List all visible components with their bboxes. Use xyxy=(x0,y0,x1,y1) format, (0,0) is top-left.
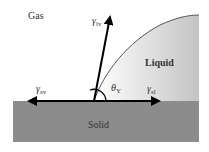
gas-label: Gas xyxy=(28,10,44,21)
gamma-sv-label: γsv xyxy=(36,83,47,96)
gamma-lv-label: γlv xyxy=(92,15,102,28)
liquid-label: Liquid xyxy=(145,57,174,68)
contact-angle-diagram: Gas Liquid Solid γlv γsv γsl θY xyxy=(0,0,209,152)
solid-label: Solid xyxy=(88,119,109,130)
